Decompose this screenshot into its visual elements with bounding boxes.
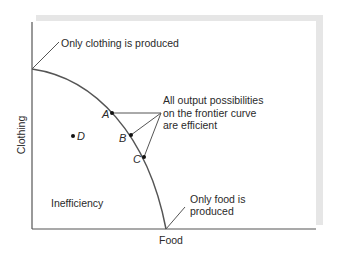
point-b-label: B [119,132,126,144]
point-c-label: C [133,153,141,165]
annotation-inefficiency: Inefficiency [51,197,104,209]
annotation-efficient-line2: on the frontier curve [163,107,257,119]
annotation-efficient-line3: are efficient [163,119,217,131]
point-b-marker [129,133,133,137]
y-axis-label: Clothing [15,116,27,155]
annotation-only-clothing: Only clothing is produced [61,37,179,49]
x-axis-label: Food [159,234,183,246]
point-c-marker [142,155,146,159]
frame-top-band [36,15,323,21]
leader-only-food [166,207,185,229]
frame-right-band [316,15,323,225]
point-a-marker [110,111,114,115]
point-d-label: D [77,130,85,142]
annotation-efficient-line1: All output possibilities [163,94,263,106]
ppf-diagram: A B C D Only clothing is produced All ou… [0,0,340,253]
point-d-marker [71,134,75,138]
annotation-only-food-line2: produced [190,205,234,217]
point-a-label: A [101,108,109,120]
annotation-only-food-line1: Only food is [190,193,245,205]
leader-only-clothing [32,42,59,69]
